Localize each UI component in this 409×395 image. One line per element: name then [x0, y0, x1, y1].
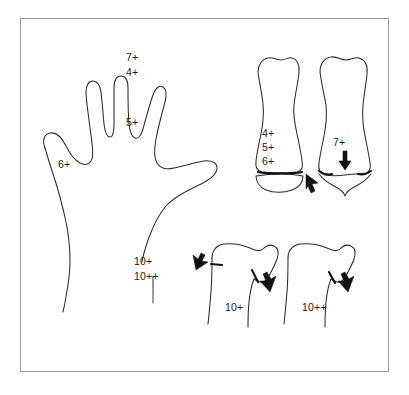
radius-10plus-lateral-arrow-icon [193, 253, 208, 270]
phalanx-fusing-label-7plus: 7+ [333, 137, 345, 148]
hand-outline [44, 76, 217, 312]
hand-label-5plus: 5+ [126, 117, 138, 128]
hand-label-6plus: 6+ [58, 159, 70, 170]
hand-label-7plus: 7+ [126, 52, 138, 63]
figure-root: 7+ 4+ 5+ 6+ 10+ 10++ 4+ 5+ 6+ 7+ 10+ 10+… [0, 0, 409, 395]
radius-10plusplus-arrow-icon [338, 272, 354, 292]
radius-label-10plus: 10+ [225, 302, 243, 313]
phalanx-unfused-label-5plus: 5+ [262, 142, 274, 153]
radius-label-10plusplus: 10++ [302, 302, 327, 313]
phalanx-plate-arrow-icon [306, 174, 318, 193]
phalanx-fusing-outline [319, 57, 371, 196]
radius-10plus-medial-arrow-icon [260, 272, 276, 292]
phalanx-unfused-outline [256, 58, 303, 192]
phalanx-unfused-label-6plus: 6+ [262, 156, 274, 167]
hand-label-4plus: 4+ [126, 67, 138, 78]
hand-label-10plus: 10+ [134, 256, 152, 267]
phalanx-fusing-down-arrow-icon [339, 151, 351, 170]
phalanx-unfused-label-4plus: 4+ [262, 128, 274, 139]
hand-label-10plusplus: 10++ [134, 271, 159, 282]
figure-artwork [0, 0, 409, 395]
